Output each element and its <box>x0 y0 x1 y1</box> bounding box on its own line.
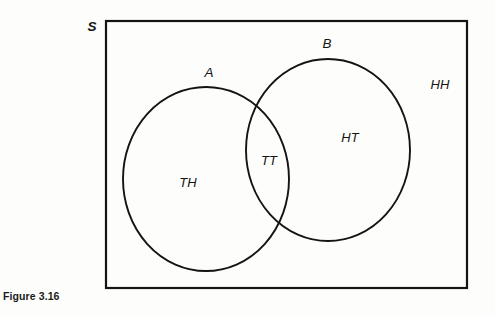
venn-diagram: S A B TH TT HT HH <box>0 0 495 317</box>
universe-label: S <box>87 19 96 34</box>
set-a-circle <box>123 87 289 271</box>
figure-caption: Figure 3.16 <box>3 290 60 302</box>
set-b-circle <box>246 59 410 241</box>
set-b-label: B <box>322 36 331 51</box>
figure-container: S A B TH TT HT HH Figure 3.16 <box>0 0 495 317</box>
region-a-only-label: TH <box>179 175 197 190</box>
region-b-only-label: HT <box>341 130 359 145</box>
region-a-and-b-label: TT <box>261 153 278 168</box>
region-outside-label: HH <box>431 77 450 92</box>
set-a-label: A <box>203 65 213 80</box>
